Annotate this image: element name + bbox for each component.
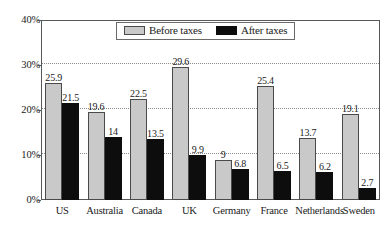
bar-group: 96.8	[215, 20, 249, 200]
bar-value-label: 6.2	[319, 162, 331, 172]
legend-item-after-taxes: After taxes	[216, 25, 287, 36]
legend-label-before-taxes: Before taxes	[149, 25, 202, 36]
bar-after-taxes[interactable]: 13.5	[147, 139, 164, 200]
legend-label-after-taxes: After taxes	[241, 25, 287, 36]
bar-before-taxes[interactable]: 19.1	[342, 114, 359, 200]
bar-value-label: 6.5	[277, 161, 289, 171]
bar-value-label: 25.4	[257, 76, 274, 86]
x-axis-label: US	[41, 205, 83, 216]
y-axis-tick-label: 10%	[0, 150, 40, 160]
y-axis-tick-label: 30%	[0, 60, 40, 70]
chart-legend: Before taxes After taxes	[116, 22, 295, 40]
x-axis-label: Sweden	[338, 205, 380, 216]
bar-before-taxes[interactable]: 19.6	[88, 112, 105, 200]
bar-after-taxes[interactable]: 6.2	[316, 172, 333, 200]
legend-swatch-after-taxes	[216, 26, 237, 35]
bar-after-taxes[interactable]: 6.8	[232, 169, 249, 200]
y-axis-tick-label: 20%	[0, 105, 40, 115]
bar-value-label: 6.8	[234, 159, 246, 169]
bar-value-label: 21.5	[62, 93, 79, 103]
y-axis-tick-label: 40%	[0, 15, 40, 25]
bar-chart: 0%10%20%30%40% 25.921.519.61422.513.529.…	[0, 0, 392, 234]
bar-group: 25.46.5	[257, 20, 291, 200]
bar-after-taxes[interactable]: 2.7	[359, 188, 376, 200]
bar-group: 19.614	[88, 20, 122, 200]
x-axis-label: UK	[168, 205, 210, 216]
bar-value-label: 19.1	[342, 104, 359, 114]
bar-value-label: 22.5	[130, 89, 147, 99]
bar-value-label: 9	[221, 150, 226, 160]
bar-group: 29.69.9	[172, 20, 206, 200]
bar-value-label: 9.9	[192, 145, 204, 155]
bar-after-taxes[interactable]: 9.9	[189, 155, 206, 200]
bar-group: 22.513.5	[130, 20, 164, 200]
bar-before-taxes[interactable]: 29.6	[172, 67, 189, 200]
bar-value-label: 19.6	[88, 102, 105, 112]
bar-value-label: 2.7	[361, 178, 373, 188]
bar-value-label: 25.9	[45, 73, 62, 83]
bar-value-label: 13.7	[300, 128, 317, 138]
legend-swatch-before-taxes	[124, 26, 145, 35]
bar-before-taxes[interactable]: 22.5	[130, 99, 147, 200]
x-axis-label: Netherlands	[295, 205, 337, 216]
y-axis-tick-label: 0%	[0, 195, 40, 205]
bar-group: 25.921.5	[45, 20, 79, 200]
bar-before-taxes[interactable]: 9	[215, 160, 232, 201]
bar-after-taxes[interactable]: 14	[105, 137, 122, 200]
bar-before-taxes[interactable]: 13.7	[299, 138, 316, 200]
bars-layer: 25.921.519.61422.513.529.69.996.825.46.5…	[41, 20, 380, 200]
legend-item-before-taxes: Before taxes	[124, 25, 202, 36]
bar-before-taxes[interactable]: 25.9	[45, 83, 62, 200]
bar-value-label: 29.6	[172, 57, 189, 67]
bar-value-label: 13.5	[147, 129, 164, 139]
x-axis-label: Germany	[211, 205, 253, 216]
x-axis-label: Canada	[126, 205, 168, 216]
bar-before-taxes[interactable]: 25.4	[257, 86, 274, 200]
x-axis-label: France	[253, 205, 295, 216]
x-axis-label: Australia	[83, 205, 125, 216]
bar-group: 19.12.7	[342, 20, 376, 200]
bar-group: 13.76.2	[299, 20, 333, 200]
bar-value-label: 14	[108, 127, 118, 137]
bar-after-taxes[interactable]: 21.5	[62, 103, 79, 200]
y-axis-tick-mark	[37, 200, 41, 201]
bar-after-taxes[interactable]: 6.5	[274, 171, 291, 200]
